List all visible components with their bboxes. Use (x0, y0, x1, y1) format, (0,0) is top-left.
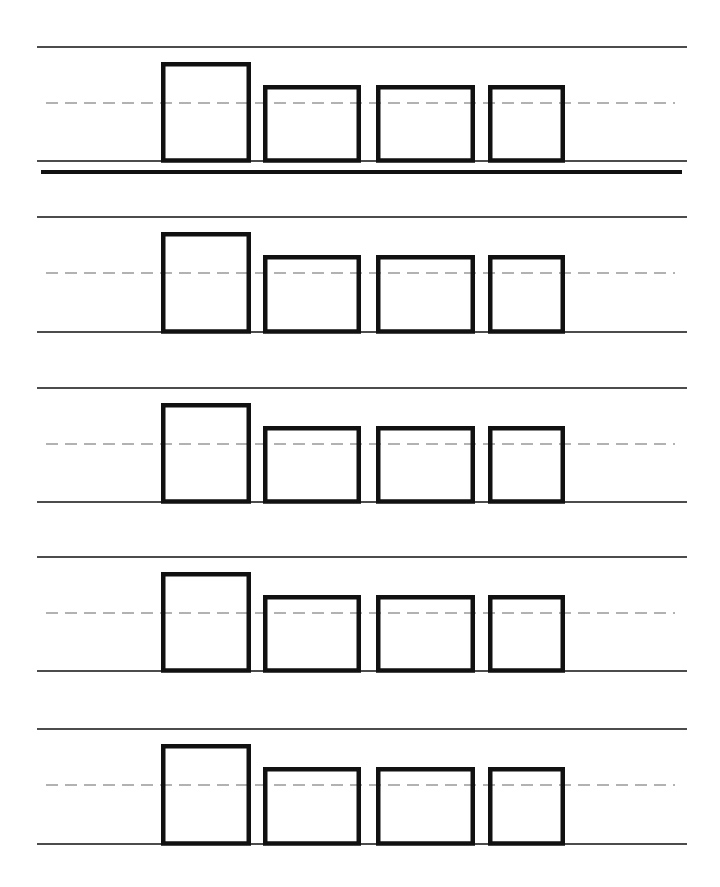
handwriting-worksheet (0, 0, 720, 887)
letter-box-short-2 (378, 428, 473, 501)
letter-box-short-1 (265, 597, 359, 670)
letter-box-tall (163, 405, 249, 501)
letter-box-short-2 (378, 769, 473, 843)
writing-row (37, 557, 687, 671)
letter-box-short-1 (265, 257, 359, 331)
letter-box-short-3 (490, 428, 563, 501)
letter-box-tall (163, 746, 249, 843)
letter-box-short-1 (265, 428, 359, 501)
letter-box-short-3 (490, 257, 563, 331)
writing-row (37, 388, 687, 502)
letter-box-tall (163, 64, 249, 160)
writing-row (37, 217, 687, 332)
writing-row (37, 47, 687, 161)
letter-box-short-3 (490, 597, 563, 670)
letter-box-short-1 (265, 87, 359, 160)
letter-box-short-2 (378, 87, 473, 160)
letter-box-short-3 (490, 769, 563, 843)
letter-box-short-2 (378, 257, 473, 331)
worksheet-drawing (0, 0, 720, 887)
letter-box-short-3 (490, 87, 563, 160)
letter-box-short-2 (378, 597, 473, 670)
letter-box-short-1 (265, 769, 359, 843)
writing-row (37, 729, 687, 844)
letter-box-tall (163, 234, 249, 331)
letter-box-tall (163, 574, 249, 670)
